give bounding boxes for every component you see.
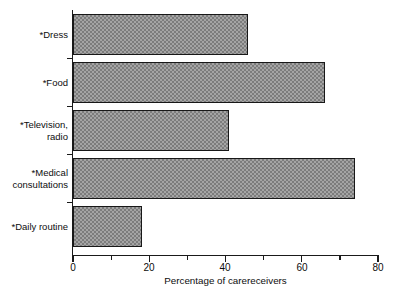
x-tick-label-0: 0 — [58, 262, 88, 273]
y-tick-4 — [67, 202, 72, 203]
x-tick-label-80: 80 — [363, 262, 393, 273]
x-axis-title: Percentage of carereceivers — [73, 275, 378, 286]
bar-food — [73, 62, 325, 103]
y-tick-3 — [67, 154, 72, 155]
chart-title-clipped — [0, 0, 398, 3]
plot-area — [73, 12, 378, 255]
category-label-television-radio: *Television, radio — [20, 119, 68, 142]
bar-daily-routine — [73, 206, 142, 247]
bar-medical-consultations — [73, 158, 355, 199]
y-tick-2 — [67, 106, 72, 107]
bar-dress — [73, 14, 248, 55]
y-tick-1 — [67, 58, 72, 59]
x-tick-label-40: 40 — [210, 262, 240, 273]
bar-chart: *Dress *Food *Television, radio *Medical… — [0, 0, 398, 292]
x-tick-label-20: 20 — [134, 262, 164, 273]
x-tick-30 — [187, 256, 188, 260]
x-tick-10 — [111, 256, 112, 260]
bar-television-radio — [73, 110, 229, 151]
category-label-medical-consultations: *Medical consultations — [13, 167, 68, 190]
category-label-food: *Food — [43, 77, 68, 89]
x-tick-label-60: 60 — [287, 262, 317, 273]
category-label-daily-routine: *Daily routine — [12, 221, 69, 233]
x-tick-70 — [339, 256, 340, 260]
x-tick-50 — [263, 256, 264, 260]
category-label-dress: *Dress — [39, 29, 68, 41]
